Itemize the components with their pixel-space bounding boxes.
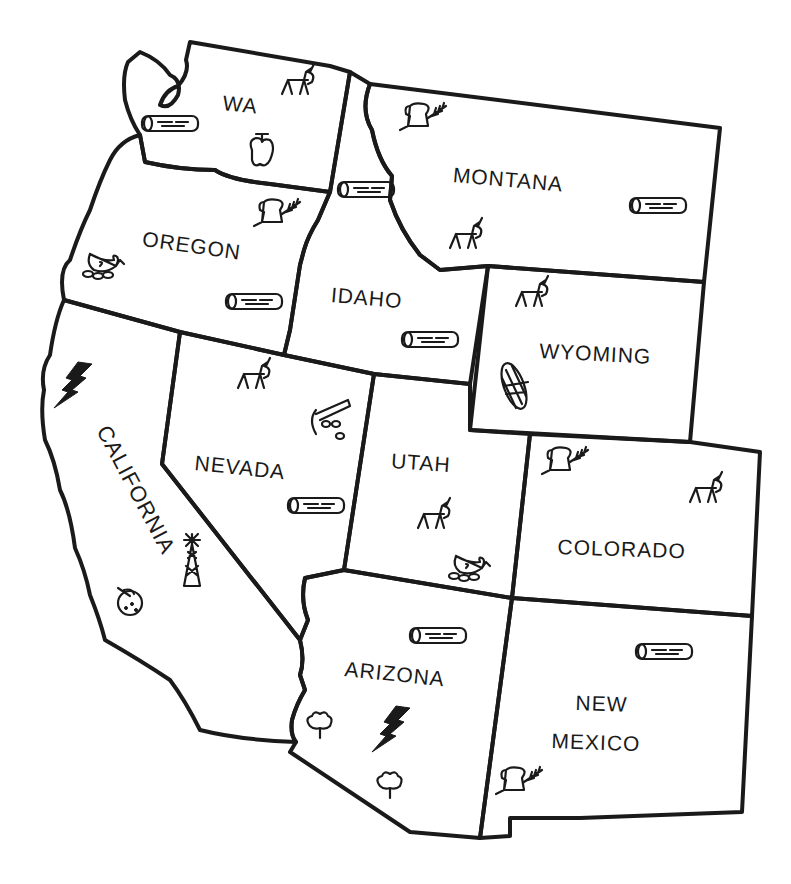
state-label-mexico: MEXICO bbox=[551, 730, 641, 754]
new-mexico-border bbox=[480, 598, 752, 838]
cattle-icon bbox=[516, 276, 548, 306]
cattle-icon bbox=[418, 498, 450, 528]
cotton-icon bbox=[307, 712, 331, 738]
cattle-icon bbox=[238, 358, 270, 388]
state-label-wa: WA bbox=[222, 92, 259, 117]
lightning-bolt-icon bbox=[54, 362, 92, 408]
nevada-border bbox=[162, 332, 374, 640]
lumber-log-icon bbox=[410, 628, 466, 643]
lumber-log-icon bbox=[288, 498, 344, 513]
lumber-log-icon bbox=[402, 332, 458, 347]
western-states-map: WA OREGON CALIFORNIA IDAHO NEVADA MONTAN… bbox=[0, 0, 791, 884]
state-label-new: NEW bbox=[575, 692, 628, 715]
poultry-icon bbox=[83, 254, 124, 279]
cattle-icon bbox=[282, 64, 314, 94]
cattle-icon bbox=[690, 472, 722, 502]
cattle-icon bbox=[450, 218, 482, 248]
bread-wheat-icon bbox=[496, 767, 542, 794]
bread-wheat-icon bbox=[400, 103, 446, 130]
arizona-border bbox=[290, 570, 512, 838]
state-label-utah: UTAH bbox=[391, 450, 452, 475]
cotton-icon bbox=[377, 772, 401, 798]
orange-fruit-icon bbox=[118, 588, 142, 615]
bread-wheat-icon bbox=[254, 199, 300, 226]
oil-derrick-icon bbox=[184, 534, 200, 586]
utah-border bbox=[344, 374, 530, 598]
lumber-log-icon bbox=[338, 182, 394, 197]
lumber-log-icon bbox=[142, 116, 198, 131]
lumber-log-icon bbox=[630, 198, 686, 213]
apple-icon bbox=[251, 134, 273, 165]
lightning-bolt-icon bbox=[372, 706, 410, 752]
poultry-icon bbox=[449, 556, 490, 581]
lumber-log-icon bbox=[636, 644, 692, 659]
mining-pick-icon bbox=[312, 400, 350, 439]
bread-wheat-icon bbox=[542, 447, 588, 474]
state-label-wyoming: WYOMING bbox=[539, 340, 652, 367]
state-label-colorado: COLORADO bbox=[557, 536, 686, 561]
lumber-log-icon bbox=[226, 294, 282, 309]
colorado-border bbox=[512, 434, 760, 616]
corn-icon bbox=[496, 360, 531, 412]
